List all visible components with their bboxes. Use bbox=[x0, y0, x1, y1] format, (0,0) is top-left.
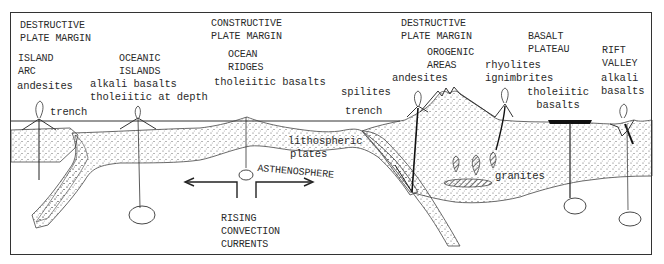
rock-label-orogenic-andesites: andesites bbox=[392, 72, 448, 85]
rock-label-rhyolites-ignimbrites: rhyolites ignimbrites bbox=[485, 59, 553, 85]
feature-label-convection-currents: RISING CONVECTION CURRENTS bbox=[221, 212, 280, 251]
margin-label-destructive-left: DESTRUCTIVE PLATE MARGIN bbox=[20, 19, 91, 45]
feature-label-lithospheric-plates: lithospheric plates bbox=[288, 135, 362, 161]
setting-label-island-arc: ISLAND ARC bbox=[18, 52, 53, 78]
rock-label-granites: granites bbox=[495, 170, 545, 183]
margin-label-constructive: CONSTRUCTIVE PLATE MARGIN bbox=[211, 17, 282, 43]
setting-label-ocean-ridges: OCEAN RIDGES bbox=[228, 48, 263, 74]
rock-label-ocean-ridges: tholeiitic basalts bbox=[214, 76, 326, 89]
margin-label-destructive-right: DESTRUCTIVE PLATE MARGIN bbox=[401, 17, 472, 43]
rock-label-island-arc-andesites: andesites bbox=[17, 80, 73, 93]
setting-label-oceanic-islands: OCEANIC ISLANDS bbox=[119, 52, 160, 78]
rock-label-basalt-plateau: tholeiitic basalts bbox=[527, 86, 589, 112]
setting-label-rift-valley: RIFT VALLEY bbox=[602, 44, 637, 70]
rock-label-spilites: spilites bbox=[341, 86, 391, 99]
rock-label-rift-valley: alkali basalts bbox=[601, 72, 644, 98]
feature-label-trench-right: trench bbox=[345, 105, 382, 118]
setting-label-orogenic-areas: OROGENIC AREAS bbox=[427, 46, 474, 72]
feature-label-trench-left: trench bbox=[50, 106, 87, 119]
rock-label-oceanic-islands: alkali basalts tholeiitic at depth bbox=[90, 78, 208, 104]
setting-label-basalt-plateau: BASALT PLATEAU bbox=[528, 30, 569, 56]
